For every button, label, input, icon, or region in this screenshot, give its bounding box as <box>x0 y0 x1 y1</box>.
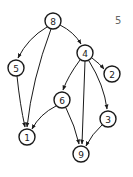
edge-4-to-9 <box>82 61 85 144</box>
edge-4-to-3 <box>89 61 107 109</box>
node-2: 2 <box>104 66 120 82</box>
node-1: 1 <box>19 129 35 145</box>
node-label: 5 <box>13 64 19 74</box>
edge-6-to-9 <box>66 108 79 144</box>
edge-8-to-4 <box>60 25 81 44</box>
node-8: 8 <box>45 13 61 29</box>
node-label: 6 <box>59 96 65 106</box>
corner-label: 5 <box>115 15 121 26</box>
directed-graph: 84526319 <box>0 0 133 177</box>
edges-layer <box>17 25 107 146</box>
edge-6-to-1 <box>32 106 56 129</box>
edge-8-to-1 <box>27 29 51 127</box>
node-label: 4 <box>82 49 88 59</box>
node-6: 6 <box>54 92 70 108</box>
edge-4-to-2 <box>92 58 104 69</box>
node-label: 2 <box>109 70 115 80</box>
node-5: 5 <box>8 60 24 76</box>
node-label: 8 <box>50 17 56 27</box>
node-label: 9 <box>78 150 84 160</box>
node-label: 3 <box>105 115 111 125</box>
edge-5-to-1 <box>17 76 25 127</box>
node-9: 9 <box>73 146 89 162</box>
node-4: 4 <box>77 45 93 61</box>
edge-4-to-6 <box>63 60 80 90</box>
node-label: 1 <box>24 133 30 143</box>
edge-3-to-9 <box>86 125 102 146</box>
node-3: 3 <box>100 111 116 127</box>
